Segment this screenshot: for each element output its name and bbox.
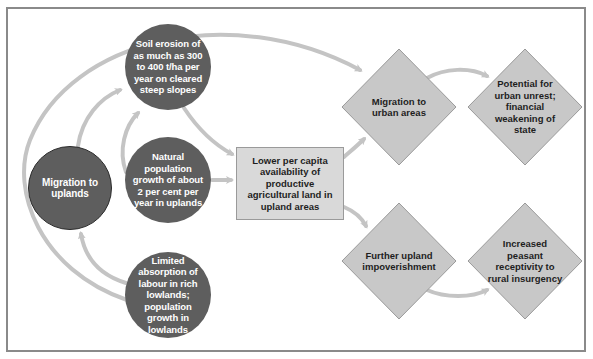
node-limited-absorption: Limited absorption of labour in rich low… [125,252,211,338]
node-label: Natural population growth of about 2 per… [131,151,205,209]
node-label: Further upland impoverishment [359,202,439,320]
arrow-uplands-to-soil [78,90,120,146]
arrow-limited-to-uplands [81,234,126,283]
node-label: Migration to uplands [35,177,105,200]
node-migration-to-uplands: Migration to uplands [28,146,112,230]
node-label: Lower per capita availability of product… [241,155,339,213]
node-natural-population-growth: Natural population growth of about 2 per… [125,137,211,223]
node-urban-unrest: Potential for urban unrest; financial we… [467,48,583,166]
node-label: Limited absorption of labour in rich low… [131,255,205,336]
node-label: Increased peasant receptivity to rural i… [485,202,565,320]
node-upland-impoverishment: Further upland impoverishment [341,202,457,320]
node-label: Soil erosion of as much as 300 to 400 t/… [131,38,205,96]
node-lower-land-availability: Lower per capita availability of product… [236,147,344,220]
node-rural-insurgency: Increased peasant receptivity to rural i… [467,202,583,320]
node-migration-to-urban: Migration to urban areas [341,48,457,166]
node-soil-erosion: Soil erosion of as much as 300 to 400 t/… [125,24,211,110]
node-label: Migration to urban areas [359,48,439,166]
node-label: Potential for urban unrest; financial we… [485,48,565,166]
